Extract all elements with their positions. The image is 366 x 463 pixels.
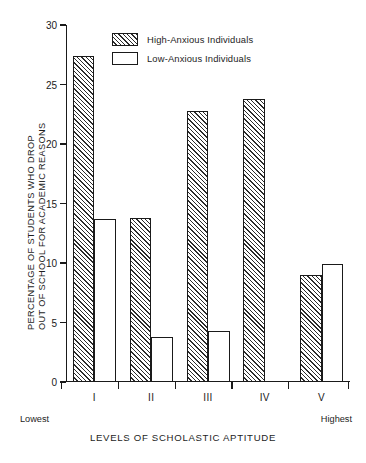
plot-area: 051015202530 IIIIIIIVV (66, 25, 350, 382)
bar-IV-high-anxious (243, 99, 265, 382)
x-tick-label-IV: IV (260, 392, 270, 403)
y-tick-label-0: 0 (51, 377, 57, 388)
bar-I-low-anxious (94, 219, 116, 382)
x-tick-V (288, 382, 289, 389)
x-tick-end (348, 382, 349, 389)
y-tick-10 (60, 262, 66, 263)
legend-item-low-anxious: Low-Anxious Individuals (112, 49, 253, 68)
y-tick-label-5: 5 (51, 317, 57, 328)
y-axis-title-line-1: PERCENTAGE OF STUDENTS WHO DROP (26, 135, 36, 330)
x-axis-high-end-label: Highest (321, 414, 352, 424)
y-axis-line (66, 25, 67, 382)
x-tick-label-V: V (318, 392, 325, 403)
y-tick-label-30: 30 (46, 20, 57, 31)
bar-I-high-anxious (73, 56, 95, 382)
y-tick-30 (60, 24, 66, 25)
y-tick-label-20: 20 (46, 139, 57, 150)
y-tick-label-25: 25 (46, 79, 57, 90)
y-axis-title-line-2: OUT OF SCHOOL FOR ACADEMIC REASONS (37, 123, 47, 330)
bar-II-high-anxious (130, 218, 152, 382)
x-tick-II (118, 382, 119, 389)
bar-III-high-anxious (187, 111, 209, 382)
legend-item-high-anxious: High-Anxious Individuals (112, 30, 253, 49)
y-tick-20 (60, 143, 66, 144)
y-tick-5 (60, 322, 66, 323)
x-tick-I (61, 382, 62, 389)
y-tick-15 (60, 203, 66, 204)
y-tick-label-10: 10 (46, 258, 57, 269)
y-tick-label-15: 15 (46, 198, 57, 209)
x-axis-title: LEVELS OF SCHOLASTIC APTITUDE (0, 432, 366, 443)
x-tick-label-II: II (148, 392, 154, 403)
x-tick-III (175, 382, 176, 389)
white-swatch (112, 52, 138, 65)
legend-label: Low-Anxious Individuals (147, 53, 251, 64)
bar-V-high-anxious (300, 275, 322, 382)
bar-V-low-anxious (322, 264, 344, 382)
x-tick-label-III: III (203, 392, 213, 403)
x-tick-label-I: I (93, 392, 96, 403)
y-tick-25 (60, 84, 66, 85)
legend-label: High-Anxious Individuals (147, 34, 253, 45)
y-axis-title: PERCENTAGE OF STUDENTS WHO DROP OUT OF S… (0, 0, 40, 420)
x-axis-low-end-label: Lowest (20, 414, 49, 424)
hatched-swatch (112, 33, 138, 46)
bar-chart-figure: PERCENTAGE OF STUDENTS WHO DROP OUT OF S… (0, 0, 366, 463)
legend: High-Anxious IndividualsLow-Anxious Indi… (112, 30, 253, 68)
bar-III-low-anxious (208, 331, 230, 382)
x-tick-IV (231, 382, 232, 389)
bar-II-low-anxious (151, 337, 173, 382)
